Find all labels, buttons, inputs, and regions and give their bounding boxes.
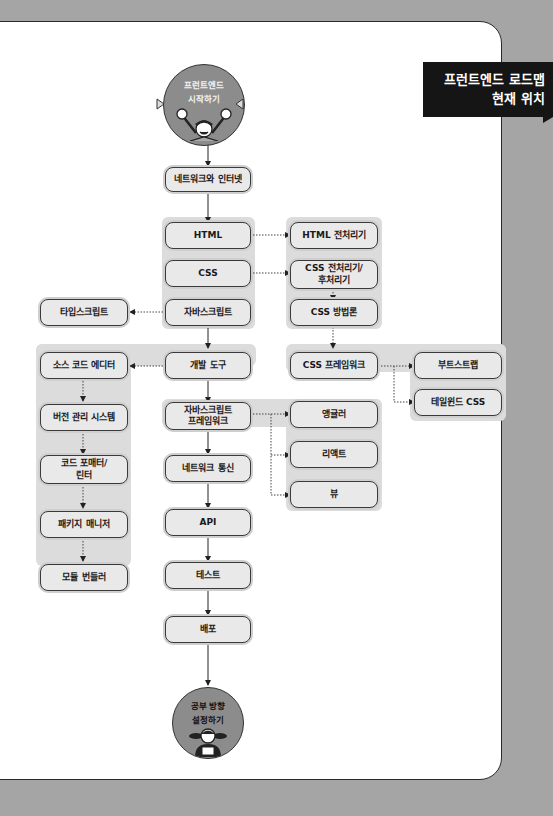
start-label: 프런트엔드 시작하기 bbox=[184, 79, 224, 106]
start-flag-right-icon bbox=[235, 98, 244, 110]
roadmap-location-badge: 프런트엔드 로드맵 현재 위치 bbox=[423, 62, 553, 117]
badge-fold bbox=[543, 117, 553, 123]
node-css-methodology[interactable]: CSS 방법론 bbox=[290, 299, 378, 326]
node-html[interactable]: HTML bbox=[165, 222, 251, 249]
node-bundler[interactable]: 모듈 번들러 bbox=[40, 564, 128, 591]
node-js-framework[interactable]: 자바스크립트 프레임워크 bbox=[165, 402, 251, 430]
node-html-preprocessor[interactable]: HTML 전처리기 bbox=[290, 222, 378, 249]
node-deploy[interactable]: 배포 bbox=[165, 616, 251, 643]
cheering-person-icon bbox=[174, 107, 234, 141]
node-devtools[interactable]: 개발 도구 bbox=[165, 352, 251, 379]
node-vcs[interactable]: 버전 관리 시스템 bbox=[40, 404, 128, 431]
node-network[interactable]: 네트워크와 인터넷 bbox=[165, 167, 251, 192]
node-react[interactable]: 리액트 bbox=[290, 441, 378, 468]
node-network-comm[interactable]: 네트워크 통신 bbox=[165, 455, 251, 482]
node-css-framework[interactable]: CSS 프레임워크 bbox=[290, 352, 378, 379]
node-typescript[interactable]: 타입스크립트 bbox=[40, 299, 128, 326]
start-flag-left-icon bbox=[156, 98, 165, 110]
node-api[interactable]: API bbox=[165, 509, 251, 536]
node-tailwind[interactable]: 테일윈드 CSS bbox=[414, 389, 502, 416]
studying-person-icon bbox=[183, 727, 233, 757]
node-package-manager[interactable]: 패키지 매니저 bbox=[40, 511, 128, 538]
end-node: 공부 방향 설정하기 bbox=[172, 687, 244, 759]
node-source-editor[interactable]: 소스 코드 에디터 bbox=[40, 352, 128, 379]
node-angular[interactable]: 앵귤러 bbox=[290, 401, 378, 428]
node-css[interactable]: CSS bbox=[165, 260, 251, 287]
end-label: 공부 방향 설정하기 bbox=[191, 700, 226, 727]
node-formatter[interactable]: 코드 포매터/ 린터 bbox=[40, 455, 128, 484]
node-bootstrap[interactable]: 부트스트랩 bbox=[414, 352, 502, 379]
node-javascript[interactable]: 자바스크립트 bbox=[165, 299, 251, 326]
start-node: 프런트엔드 시작하기 bbox=[163, 64, 245, 146]
node-vue[interactable]: 뷰 bbox=[290, 481, 378, 508]
node-css-preprocessor[interactable]: CSS 전처리기/ 후처리기 bbox=[290, 260, 378, 289]
node-test[interactable]: 테스트 bbox=[165, 562, 251, 589]
